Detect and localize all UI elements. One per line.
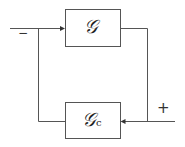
plant-label: 𝒢	[84, 15, 98, 38]
plus-sign: +	[157, 99, 170, 117]
arrowhead-icon	[121, 119, 126, 124]
minus-sign: −	[18, 26, 28, 40]
feedback-line	[39, 29, 66, 122]
arrowhead-icon	[60, 26, 65, 31]
plant-output-line	[121, 29, 148, 122]
controller-label: 𝒢c	[82, 108, 102, 131]
